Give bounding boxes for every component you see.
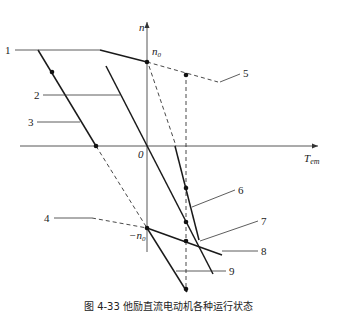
callout-5: 5 <box>243 67 249 79</box>
neg-n0-label: −n0 <box>129 229 146 243</box>
y-axis-label: n <box>139 21 145 33</box>
characteristic-3 <box>38 50 96 146</box>
characteristic-1 <box>100 50 147 62</box>
operating-point <box>94 144 99 149</box>
characteristic-4-dashed <box>92 218 147 228</box>
leader-6 <box>192 190 235 207</box>
x-axis-label: Tem <box>304 152 320 166</box>
operating-point <box>184 220 189 225</box>
mechanical-characteristics-diagram: n Tem 0 n0 −n0 1 2 3 4 5 6 7 8 9 <box>0 0 337 312</box>
no-load-point-n0 <box>145 60 150 65</box>
callout-6: 6 <box>238 184 244 196</box>
callout-7: 7 <box>261 215 267 227</box>
characteristic-5-dashed <box>147 62 218 82</box>
operating-point <box>50 70 55 75</box>
leader-7 <box>200 221 258 241</box>
operating-point <box>184 239 189 244</box>
callout-9: 9 <box>229 265 235 277</box>
operating-point <box>184 287 189 292</box>
characteristic-6-dashed <box>149 66 176 146</box>
origin-label: 0 <box>138 148 144 160</box>
callout-1: 1 <box>5 44 11 56</box>
characteristic-2 <box>106 66 213 274</box>
leader-5 <box>220 74 240 82</box>
n0-label: n0 <box>152 45 162 59</box>
figure-caption: 图 4-33 他励直流电动机各种运行状态 <box>0 298 337 312</box>
characteristic-9 <box>147 228 187 292</box>
operating-point <box>184 186 189 191</box>
callout-4: 4 <box>44 212 50 224</box>
no-load-point-neg-n0 <box>145 226 150 231</box>
operating-point <box>184 73 189 78</box>
callout-2: 2 <box>34 89 40 101</box>
callout-3: 3 <box>28 116 34 128</box>
characteristic-6 <box>175 146 199 240</box>
callout-8: 8 <box>261 245 267 257</box>
